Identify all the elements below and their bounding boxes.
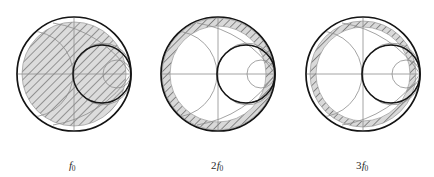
smith-chart-f0 [0,0,145,150]
chart-panel-f0: f0 [0,0,145,177]
smith-chart-2f0 [145,0,290,150]
chart-caption-3f0: 3f0 [290,160,434,171]
smith-chart-figure: f0 [0,0,434,177]
smith-chart-3f0 [290,0,434,150]
chart-caption-f0: f0 [0,160,145,171]
caption-subscript-f0: 0 [72,164,76,173]
caption-subscript-2f0: 0 [220,164,224,173]
caption-subscript-3f0: 0 [365,164,369,173]
chart-panel-2f0: 2f0 [145,0,290,177]
chart-caption-2f0: 2f0 [145,160,290,171]
chart-panel-3f0: 3f0 [290,0,434,177]
